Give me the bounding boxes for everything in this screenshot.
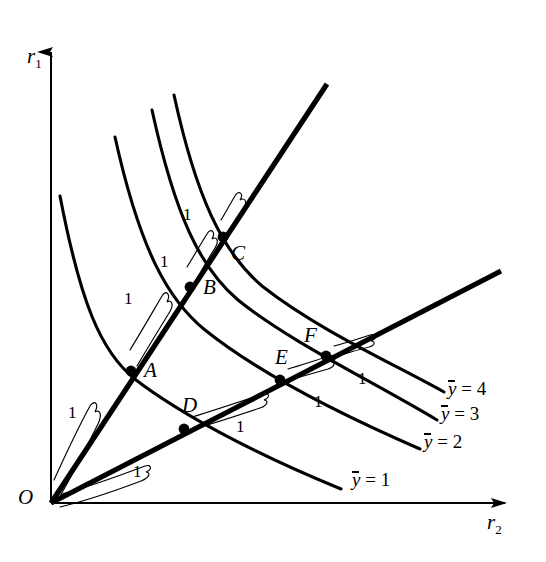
distance-label-o-d: 1 xyxy=(133,463,142,480)
point-label-d: D xyxy=(182,395,197,416)
point-marker-c xyxy=(218,232,229,243)
y-bar-symbol: y xyxy=(441,404,449,423)
distance-label-d-e: 1 xyxy=(236,418,245,435)
distance-label-o-a: 1 xyxy=(68,404,77,421)
overbar-decoration xyxy=(448,380,455,382)
y-bar-symbol: y xyxy=(448,379,456,398)
point-marker-d xyxy=(179,424,190,435)
isoquant-level-text: = 4 xyxy=(456,378,486,399)
isoquant-label-1: y = 1 xyxy=(352,470,390,489)
point-marker-b xyxy=(185,282,196,293)
distance-label-f-next: 1 xyxy=(358,370,367,387)
x-axis-label: r2 xyxy=(487,512,502,536)
y-axis-label-subscript: 1 xyxy=(35,56,42,71)
x-axis-label-subscript: 2 xyxy=(495,522,502,537)
isoquant-level-text: = 1 xyxy=(360,469,390,490)
figure-canvas xyxy=(0,0,546,562)
y-bar-symbol: y xyxy=(352,470,360,489)
point-marker-e xyxy=(275,375,286,386)
overbar-decoration xyxy=(352,471,359,473)
origin-label: O xyxy=(18,487,33,508)
isoquants-group xyxy=(60,95,444,489)
overbar-decoration xyxy=(441,405,448,407)
point-label-a: A xyxy=(144,360,157,381)
point-label-f: F xyxy=(304,325,317,346)
point-label-c: C xyxy=(231,243,245,264)
isoquant-label-4: y = 4 xyxy=(448,379,486,398)
isoquant-level-text: = 2 xyxy=(432,431,462,452)
y-bar-symbol: y xyxy=(424,432,432,451)
point-label-b: B xyxy=(203,277,216,298)
overbar-decoration xyxy=(424,433,431,435)
isoquant-figure: r1 r2 O ABCDEF 11111111 y = 1y = 2y = 3y… xyxy=(0,0,546,562)
x-axis-label-base: r xyxy=(487,510,495,534)
point-label-e: E xyxy=(275,347,288,368)
distance-label-e-f: 1 xyxy=(314,393,323,410)
distance-brackets-group xyxy=(54,193,375,507)
distance-label-a-b: 1 xyxy=(124,290,133,307)
distance-label-c-top: 1 xyxy=(183,206,192,223)
isoquant-curve-3 xyxy=(152,110,437,420)
upper-ray xyxy=(51,84,327,503)
isoquant-label-2: y = 2 xyxy=(424,432,462,451)
point-marker-a xyxy=(126,366,137,377)
distance-label-b-c: 1 xyxy=(160,253,169,270)
y-axis-label: r1 xyxy=(27,46,42,70)
isoquant-level-text: = 3 xyxy=(449,403,479,424)
isoquant-label-3: y = 3 xyxy=(441,404,479,423)
y-axis-label-base: r xyxy=(27,44,35,68)
point-marker-f xyxy=(321,351,332,362)
